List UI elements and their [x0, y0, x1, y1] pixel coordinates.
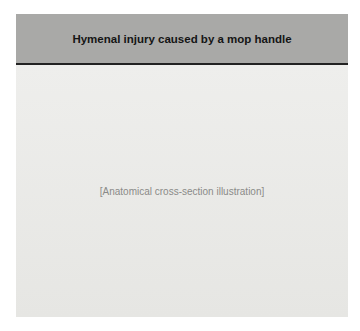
figure-header: Hymenal injury caused by a mop handle — [16, 14, 348, 65]
figure-title: Hymenal injury caused by a mop handle — [72, 33, 291, 45]
illustration-placeholder: [Anatomical cross-section illustration] — [100, 186, 265, 197]
anatomical-illustration: [Anatomical cross-section illustration] — [16, 65, 348, 317]
figure: Hymenal injury caused by a mop handle [A… — [16, 14, 348, 317]
